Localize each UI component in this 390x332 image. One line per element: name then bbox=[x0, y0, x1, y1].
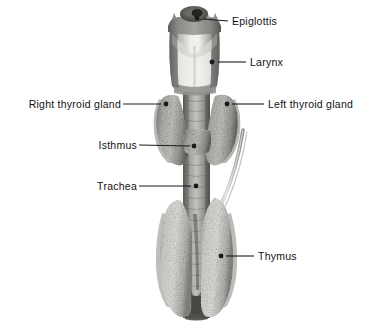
anchor-dot-trachea bbox=[194, 184, 199, 189]
thyroid-isthmus bbox=[183, 129, 211, 156]
left-thyroid-lobe bbox=[205, 95, 238, 166]
label-isthmus: Isthmus bbox=[98, 140, 137, 151]
specimen-group bbox=[154, 6, 247, 321]
label-epiglottis: Epiglottis bbox=[232, 16, 277, 27]
anchor-dot-larynx bbox=[210, 60, 215, 65]
anchor-dot-isthmus bbox=[192, 144, 197, 149]
label-trachea: Trachea bbox=[97, 181, 137, 192]
label-left-thyroid-gland: Left thyroid gland bbox=[268, 99, 353, 110]
label-thymus: Thymus bbox=[258, 251, 297, 262]
anchor-dot-thymus bbox=[219, 254, 224, 259]
thymus-gland bbox=[156, 198, 237, 317]
anchor-dot-right-thyroid-gland bbox=[164, 102, 169, 107]
label-right-thyroid-gland: Right thyroid gland bbox=[29, 99, 121, 110]
specimen-illustration bbox=[0, 0, 390, 332]
anchor-dot-epiglottis bbox=[195, 16, 200, 21]
label-larynx: Larynx bbox=[250, 57, 283, 68]
anchor-dot-left-thyroid-gland bbox=[225, 102, 230, 107]
anatomy-figure: EpiglottisLarynxRight thyroid glandLeft … bbox=[0, 0, 390, 332]
